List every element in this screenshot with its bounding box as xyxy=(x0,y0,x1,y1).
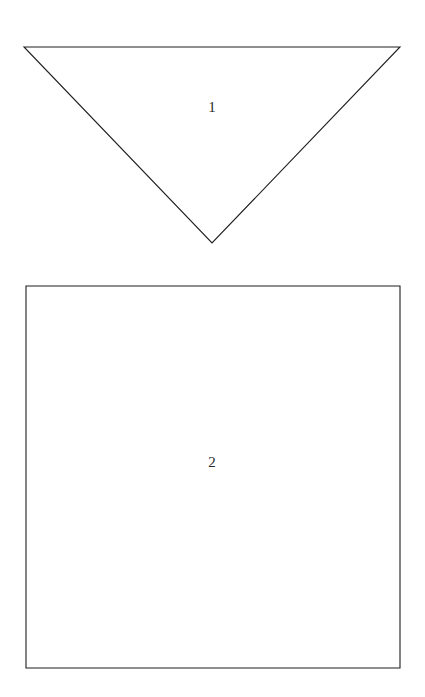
figure-sheet: 1 2 xyxy=(0,0,425,697)
triangle-shape-1[interactable] xyxy=(24,47,400,243)
square-label-2: 2 xyxy=(208,455,216,470)
triangle-label-1: 1 xyxy=(208,100,216,115)
square-shape-2[interactable] xyxy=(26,286,400,668)
